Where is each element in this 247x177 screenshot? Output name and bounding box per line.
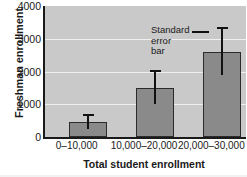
annotation-line-3: bar: [151, 46, 190, 57]
y-tick-label-4000: 4000: [3, 1, 41, 12]
x-axis-title: Total student enrollment: [43, 158, 245, 170]
y-tick-label-1000: 1000: [3, 99, 41, 110]
annotation-leader-line: [192, 31, 209, 33]
bar-chart-figure: Freshman enrollment 4000 3000 2000 1000 …: [0, 0, 247, 177]
error-bar-cap-20000-30000: [217, 27, 228, 29]
error-bar-line-0-10000: [87, 116, 89, 129]
error-bar-cap-10000-20000: [150, 70, 161, 72]
standard-error-bar-annotation: Standard error bar: [151, 25, 190, 57]
x-tick-label-10000-20000: 10,000–20,000: [110, 140, 177, 153]
y-tick-label-0: 0: [3, 132, 41, 143]
y-axis-tick-labels: 4000 3000 2000 1000 0: [0, 0, 41, 177]
x-axis-tick-labels: 0–10,000 10,000–20,000 20,000–30,000: [43, 140, 245, 153]
x-tick-label-0-10000: 0–10,000: [43, 140, 110, 153]
plot-area: [43, 6, 246, 139]
annotation-line-1: Standard: [151, 25, 190, 36]
error-bar-line-10000-20000: [154, 72, 156, 105]
gridline-3000: [45, 39, 246, 40]
y-tick-label-3000: 3000: [3, 34, 41, 45]
x-tick-label-20000-30000: 20,000–30,000: [178, 140, 245, 153]
error-bar-line-20000-30000: [221, 29, 223, 75]
bottom-edge-artifact: [0, 175, 247, 177]
y-tick-label-2000: 2000: [3, 67, 41, 78]
error-bar-cap-0-10000: [83, 114, 94, 116]
